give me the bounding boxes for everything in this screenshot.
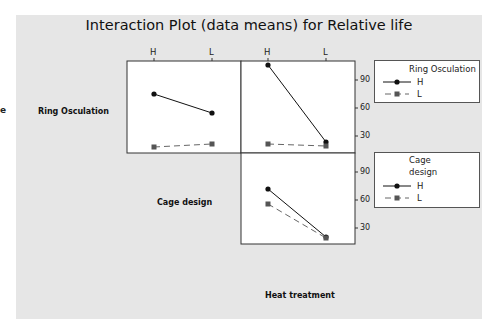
y-tick-label: 60 — [360, 103, 370, 112]
y-tick-label: 60 — [360, 195, 370, 204]
point-l-h — [266, 142, 271, 147]
legend-cage-design: Cage design H L — [374, 152, 480, 208]
legend-title: Ring Osculation — [409, 64, 476, 74]
point-l-h — [152, 145, 157, 150]
plot-area-cage-vs-heat — [241, 153, 355, 244]
legend-label: H — [417, 77, 423, 87]
point-h-h — [265, 62, 270, 67]
legend-item-l: L — [383, 88, 422, 100]
plot-area-ring-vs-heat — [241, 61, 355, 153]
point-l-l — [324, 236, 329, 241]
legend-ring-osculation: Ring Osculation H L — [374, 60, 480, 103]
y-tick-label: 90 — [360, 167, 370, 176]
legend-label: L — [417, 89, 422, 99]
legend-item-h: H — [383, 180, 423, 192]
line-circle-marker-icon — [383, 182, 411, 190]
x-tick-label: H — [264, 47, 270, 57]
dashed-square-marker-icon — [383, 194, 411, 202]
x-tick-label: L — [209, 47, 214, 57]
point-l-h — [266, 202, 271, 207]
x-tick-label: L — [323, 47, 328, 57]
legend-item-h: H — [383, 76, 423, 88]
point-h-h — [265, 186, 270, 191]
point-h-h — [151, 91, 156, 96]
point-l-l — [210, 142, 215, 147]
point-l-l — [324, 144, 329, 149]
legend-title-line1: Cage — [409, 155, 431, 165]
legend-label: L — [417, 193, 422, 203]
legend-item-l: L — [383, 192, 422, 204]
legend-label: H — [417, 181, 423, 191]
point-h-l — [209, 110, 214, 115]
x-tick-label: H — [150, 47, 156, 57]
dashed-square-marker-icon — [383, 90, 411, 98]
y-tick-label: 30 — [360, 223, 370, 232]
y-tick-label: 30 — [360, 131, 370, 140]
y-tick-label: 90 — [360, 75, 370, 84]
plot-area-ring-vs-cage — [127, 61, 241, 153]
line-circle-marker-icon — [383, 78, 411, 86]
legend-title-line2: design — [409, 167, 437, 177]
